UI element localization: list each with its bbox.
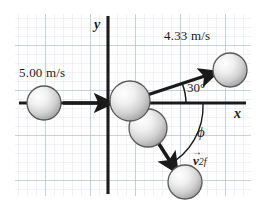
outgoing-ball-upper-right: [213, 53, 247, 87]
outgoing-ball-lower-right: [168, 165, 202, 199]
v2f-vector-label: v→2f: [193, 154, 207, 167]
diagram-canvas: [0, 0, 267, 218]
incoming-speed-label: 5.00 m/s: [19, 66, 65, 79]
y-axis-label: y: [94, 18, 100, 32]
phi-angle-label: ϕ: [197, 125, 205, 140]
collision-diagram: 5.00 m/s 4.33 m/s y x 30° ϕ v→2f: [0, 0, 267, 218]
v2f-vector-arrow-glyph: →: [192, 147, 202, 157]
incoming-ball: [27, 86, 61, 120]
outgoing-speed-label: 4.33 m/s: [164, 29, 210, 42]
v2f-subscript: 2f: [199, 156, 207, 167]
x-axis-label: x: [234, 107, 241, 121]
theta-angle-label: 30°: [187, 81, 205, 94]
origin-ball-upper: [110, 81, 150, 121]
